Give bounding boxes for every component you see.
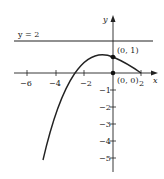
origin-label: (0, 0): [117, 76, 139, 85]
x-tick-label: −6: [20, 79, 32, 88]
x-tick-label: −4: [49, 79, 61, 88]
x-axis-arrow-icon: [151, 71, 158, 76]
y-axis-label: y: [102, 15, 108, 24]
line-y-equals-2-label: y = 2: [17, 30, 39, 39]
y-axis-arrow-icon: [111, 15, 116, 22]
y-tick-label: −2: [99, 103, 111, 112]
x-tick-label: 2: [139, 79, 144, 88]
parabola-curve: [43, 55, 141, 160]
y-tick-label: −4: [99, 137, 111, 146]
vertex-label: (0, 1): [117, 46, 139, 55]
x-axis-label: x: [153, 76, 158, 85]
parabola-chart: y = 2 x y −6 −4 −2 2 −1 −2 −3 −4 −5 (0, …: [0, 0, 164, 179]
y-tick-label: −3: [99, 120, 111, 129]
y-tick-label: −1: [99, 86, 111, 95]
x-tick-label: −2: [80, 79, 92, 88]
origin-point: [111, 71, 116, 76]
y-tick-label: −5: [99, 154, 111, 163]
vertex-point: [111, 55, 116, 60]
